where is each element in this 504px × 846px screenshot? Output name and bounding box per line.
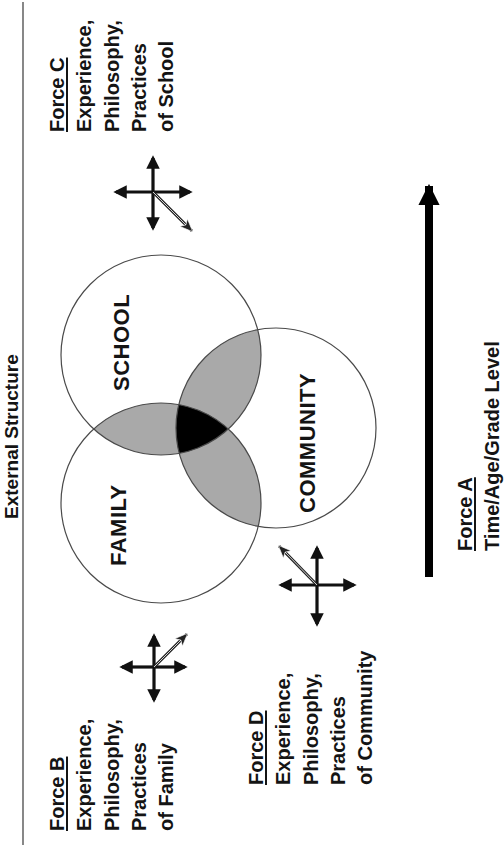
- force-c-title: Force C: [44, 20, 71, 132]
- force-b-line: Practices: [126, 719, 153, 831]
- force-c-line: Philosophy,: [99, 20, 126, 132]
- force-b-line: of Family: [153, 719, 180, 831]
- force-d-line: of Community: [352, 651, 379, 785]
- force-b-line: Experience,: [71, 719, 98, 831]
- force-b-description: Force B Experience, Philosophy, Practice…: [44, 719, 180, 831]
- force-a-description: Force A Time/Age/Grade Level: [452, 341, 504, 551]
- force-d-line: Philosophy,: [298, 651, 325, 785]
- force-c-line: Practices: [126, 20, 153, 132]
- force-b-compass-icon: [122, 634, 187, 700]
- force-c-description: Force C Experience, Philosophy, Practice…: [44, 20, 180, 132]
- force-a-line: Time/Age/Grade Level: [479, 341, 504, 551]
- force-b-title: Force B: [44, 719, 71, 831]
- force-c-line: Experience,: [71, 20, 98, 132]
- force-c-compass-icon: [116, 158, 192, 231]
- force-d-description: Force D Experience, Philosophy, Practice…: [243, 651, 379, 785]
- force-d-line: Practices: [325, 651, 352, 785]
- family-label: FAMILY: [106, 484, 132, 566]
- external-structure-label: External Structure: [1, 329, 23, 519]
- force-d-line: Experience,: [270, 651, 297, 785]
- community-label: COMMUNITY: [295, 373, 321, 513]
- force-d-compass-icon: [279, 546, 354, 624]
- school-label: SCHOOL: [109, 294, 135, 391]
- force-b-line: Philosophy,: [99, 719, 126, 831]
- force-a-title: Force A: [452, 341, 479, 551]
- force-c-line: of School: [153, 20, 180, 132]
- overlapping-spheres-diagram: External Structure SCHOOL FAMILY COMMUNI…: [0, 0, 504, 846]
- force-d-title: Force D: [243, 651, 270, 785]
